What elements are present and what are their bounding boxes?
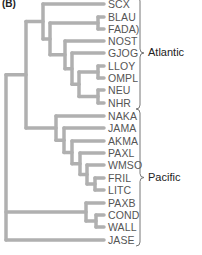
leaf-label: NEU (108, 84, 130, 96)
leaf-label: FADA) (108, 23, 139, 35)
leaf-label: COND (108, 209, 139, 221)
leaf-label: PAXB (108, 197, 136, 209)
leaf-label: SCX (108, 0, 130, 10)
leaf-label: BLAU (108, 11, 136, 23)
leaf-label: PAXL (108, 147, 134, 159)
phylogenetic-tree (0, 0, 202, 255)
leaf-label: GJOG (108, 47, 138, 59)
leaf-label: WMSO (108, 159, 142, 171)
leaf-label: LLOY (108, 60, 135, 72)
leaf-label: NHR (108, 97, 131, 109)
panel-label: (B) (2, 0, 16, 9)
leaf-label: FRIL (108, 172, 131, 184)
leaf-label: WALL (108, 221, 137, 233)
leaf-label: LITC (108, 184, 131, 196)
leaf-label: AKMA (108, 135, 138, 147)
leaf-label: NAKA (108, 110, 137, 122)
group-brace (136, 109, 144, 246)
group-label-pacific: Pacific (148, 171, 180, 183)
leaf-label: OMPL (108, 72, 138, 84)
leaf-label: NOST (108, 35, 138, 47)
leaf-label: JASE (108, 234, 135, 246)
group-label-atlantic: Atlantic (148, 46, 184, 58)
leaf-label: JAMA (108, 122, 136, 134)
